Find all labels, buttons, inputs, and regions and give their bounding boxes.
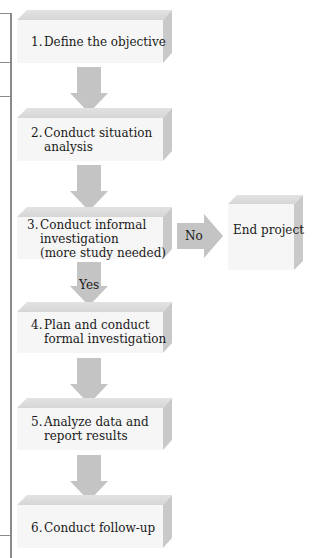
frame-rule-4 [0, 535, 11, 536]
frame-left-border [10, 13, 12, 558]
step-label-5: 5.Analyze data and report results [31, 415, 149, 443]
step-text-line: investigation [27, 232, 166, 246]
box-top-bevel [17, 398, 172, 408]
step-number: 5. [31, 415, 44, 429]
box-top-bevel [17, 495, 172, 505]
box-front-face [228, 204, 294, 270]
frame-rule-2 [0, 62, 11, 63]
step-number: 2. [31, 126, 44, 140]
yes-label: Yes [79, 278, 99, 292]
step-text-line: Conduct follow-up [44, 521, 155, 535]
step-text-line: Define the objective [44, 35, 166, 49]
arrow-down-icon [70, 67, 108, 113]
step-label-4: 4.Plan and conduct formal investigation [31, 318, 166, 346]
arrow-down-1 [70, 67, 108, 113]
step-label-1: 1.Define the objective [31, 35, 166, 49]
arrow-down-icon [70, 165, 108, 211]
arrow-down-icon [70, 455, 108, 501]
step-number: 3. [27, 218, 40, 232]
arrow-down-icon [70, 358, 108, 404]
step-number: 4. [31, 318, 44, 332]
box-top-bevel [17, 302, 172, 312]
step-text-line: Conduct informal [40, 218, 146, 232]
frame-rule-1 [0, 13, 11, 14]
box-top-bevel [17, 207, 172, 217]
frame-rule-3 [0, 96, 11, 97]
step-text-line: Plan and conduct [44, 318, 150, 332]
step-label-6: 6.Conduct follow-up [31, 521, 155, 535]
arrow-down-5 [70, 455, 108, 501]
arrow-down-2 [70, 165, 108, 211]
no-label: No [185, 229, 203, 243]
step-text-line: (more study needed) [27, 246, 166, 260]
step-number: 1. [31, 35, 44, 49]
step-text-line: analysis [31, 140, 152, 154]
step-text-line: Conduct situation [44, 126, 152, 140]
end-project-label: End project [233, 223, 304, 237]
arrow-right-no: No [177, 214, 223, 258]
step-number: 6. [31, 521, 44, 535]
box-top-bevel [17, 10, 172, 20]
step-text-line: Analyze data and [44, 415, 149, 429]
step-label-2: 2.Conduct situation analysis [31, 126, 152, 154]
arrow-down-yes: Yes [70, 262, 108, 306]
step-label-3: 3.Conduct informal investigation (more s… [27, 218, 166, 260]
box-top-bevel [17, 108, 172, 118]
step-text-line: formal investigation [31, 332, 166, 346]
step-text-line: report results [31, 429, 149, 443]
box-top-bevel [228, 195, 303, 204]
arrow-down-4 [70, 358, 108, 404]
